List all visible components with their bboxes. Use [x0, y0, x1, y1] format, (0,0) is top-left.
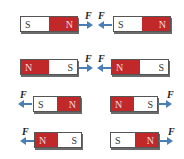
- south-pole: S: [21, 17, 49, 31]
- south-pole: S: [111, 133, 135, 147]
- magnet-row1-right: S N: [113, 16, 171, 32]
- south-pole: S: [49, 60, 77, 74]
- north-pole: N: [112, 60, 140, 74]
- magnet-row3-left: S N: [33, 96, 81, 112]
- north-pole: N: [21, 60, 49, 74]
- south-pole: S: [140, 60, 168, 74]
- south-pole: S: [58, 133, 81, 147]
- south-pole: S: [134, 97, 157, 111]
- north-pole: N: [142, 17, 170, 31]
- force-label: F: [85, 10, 92, 21]
- south-pole: S: [114, 17, 142, 31]
- north-pole: N: [57, 97, 80, 111]
- south-pole: S: [34, 97, 57, 111]
- force-arrow-left-icon: [98, 21, 112, 29]
- force-label: F: [98, 53, 105, 64]
- north-pole: N: [49, 17, 77, 31]
- force-label: F: [168, 126, 175, 137]
- force-label: F: [85, 53, 92, 64]
- force-label: F: [20, 89, 27, 100]
- force-arrow-left-icon: [97, 64, 111, 72]
- magnet-row4-right: S N: [110, 132, 159, 148]
- force-label: F: [22, 126, 29, 137]
- force-arrow-right-icon: [159, 137, 173, 145]
- magnet-row2-left: N S: [20, 59, 78, 75]
- north-pole: N: [35, 133, 58, 147]
- magnet-row1-left: S N: [20, 16, 78, 32]
- magnet-row4-left: N S: [34, 132, 82, 148]
- force-arrow-left-icon: [18, 100, 32, 108]
- force-arrow-right-icon: [158, 100, 172, 108]
- force-label: F: [98, 10, 105, 21]
- magnet-row2-right: N S: [111, 59, 169, 75]
- force-arrow-left-icon: [20, 137, 34, 145]
- force-label: F: [167, 89, 174, 100]
- north-pole: N: [135, 133, 159, 147]
- north-pole: N: [111, 97, 134, 111]
- force-arrow-right-icon: [79, 64, 93, 72]
- magnet-row3-right: N S: [110, 96, 158, 112]
- force-arrow-right-icon: [79, 21, 93, 29]
